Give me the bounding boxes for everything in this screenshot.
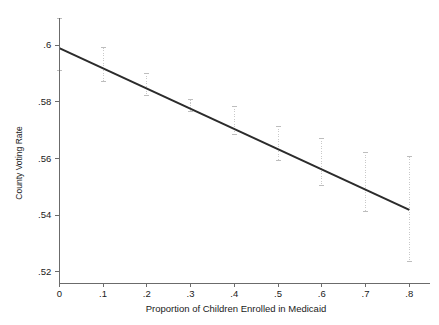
x-tick-label: .4 bbox=[230, 288, 238, 299]
x-tick-label: .8 bbox=[405, 288, 413, 299]
y-tick-label: .54 bbox=[38, 209, 51, 220]
y-tick-label: .56 bbox=[38, 153, 51, 164]
x-axis bbox=[59, 283, 430, 287]
scatter-fit-plot: .52.54.56.58.6 0.1.2.3.4.5.6.7.8 County … bbox=[0, 0, 439, 325]
y-tick-labels: .52.54.56.58.6 bbox=[38, 39, 51, 277]
x-tick-label: .6 bbox=[318, 288, 326, 299]
x-tick-label: .1 bbox=[99, 288, 107, 299]
y-axis-title: County Voting Rate bbox=[14, 126, 24, 200]
fit-line-group bbox=[59, 48, 409, 210]
y-tick-label: .58 bbox=[38, 96, 51, 107]
y-axis bbox=[55, 18, 59, 283]
y-tick-label: .6 bbox=[43, 39, 51, 50]
x-tick-labels: 0.1.2.3.4.5.6.7.8 bbox=[57, 288, 414, 299]
x-tick-label: .5 bbox=[274, 288, 282, 299]
x-tick-label: .3 bbox=[187, 288, 195, 299]
chart-container: .52.54.56.58.6 0.1.2.3.4.5.6.7.8 County … bbox=[0, 0, 439, 325]
x-tick-label: 0 bbox=[57, 288, 62, 299]
confidence-interval-bars bbox=[57, 18, 412, 262]
x-axis-title: Proportion of Children Enrolled in Medic… bbox=[146, 303, 327, 314]
regression-fit-line bbox=[59, 48, 409, 210]
x-tick-label: .2 bbox=[143, 288, 151, 299]
x-tick-label: .7 bbox=[362, 288, 370, 299]
y-tick-label: .52 bbox=[38, 266, 51, 277]
